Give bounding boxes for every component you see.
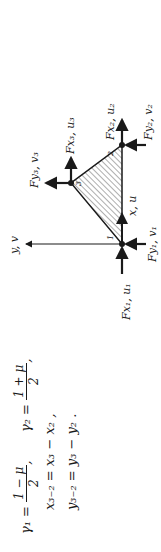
node-label-1: 1 [106,235,115,240]
rotated-page: γ₁ = 1 − μ 2 , γ₂ = 1 + μ 2 , x₃₋₂ = x₃ … [0,0,161,552]
fy2-label: Fy₂, v₂ [142,104,155,140]
node-1 [119,241,125,247]
triangle-element-diagram [0,0,161,552]
node-label-2: 2 [106,151,115,156]
fy1-label: Fy₁, v₁ [146,226,159,262]
x-axis-label: x, u [126,196,139,216]
y-axis-label: y, v [8,236,21,254]
fx3-label: Fx₃, u₃ [64,117,77,154]
fx1-label: Fx₁, u₁ [120,283,133,320]
fx2-label: Fx₂, u₂ [104,103,117,140]
fy3-label: Fy₃, v₃ [28,152,41,188]
hatched-triangle [71,145,122,244]
node-label-3: 3 [74,181,83,186]
